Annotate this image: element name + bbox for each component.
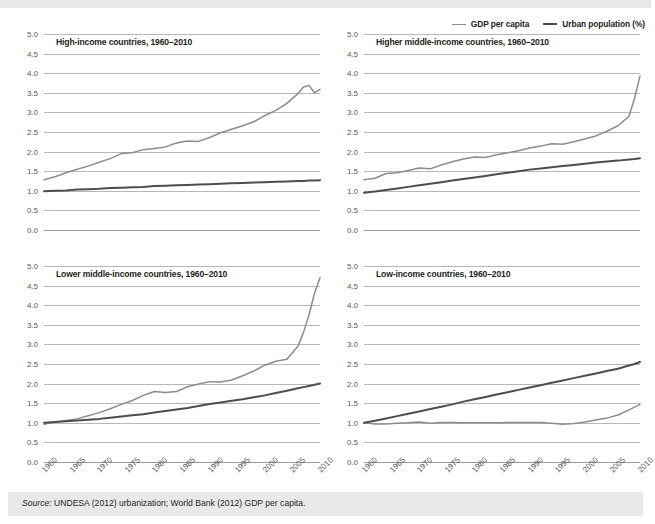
y-axis-tick-label: 4.5 [8,50,38,59]
y-axis-tick-label: 3.5 [328,321,358,330]
y-axis-tick-label: 5.0 [328,262,358,271]
y-axis-tick-label: 2.0 [328,380,358,389]
plot-area [44,266,320,462]
series-line-urban [44,180,320,191]
x-axis-tick-label: 1960 [360,455,379,474]
chart-panel-lower-middle-income: Lower middle-income countries, 1960–2010… [8,262,328,494]
y-axis-tick-label: 3.5 [328,89,358,98]
y-axis-tick-label: 1.0 [328,187,358,196]
y-axis-tick-label: 2.5 [8,360,38,369]
panel-title: High-income countries, 1960–2010 [56,37,192,47]
y-axis-tick-label: 2.0 [8,148,38,157]
legend-item-gdp: GDP per capita [452,19,530,29]
y-axis-tick-label: 0.5 [328,206,358,215]
plot-area [44,34,320,230]
y-axis-tick-label: 2.5 [328,360,358,369]
y-axis-tick-label: 4.0 [328,69,358,78]
series-canvas [44,34,320,230]
chart-panel-low-income: Low-income countries, 1960–2010 5.04.54.… [328,262,648,494]
y-axis-tick-label: 3.5 [8,89,38,98]
y-axis-tick-label: 1.0 [8,187,38,196]
y-axis-tick-label: 4.5 [328,50,358,59]
x-axis-tick-label: 1960 [40,455,59,474]
y-axis-tick-label: 3.0 [8,108,38,117]
figure-panel-grid: GDP per capita Urban population (%) High… [0,8,651,486]
plot-area [364,34,640,230]
series-canvas [364,34,640,230]
y-axis-tick-label: 1.0 [328,419,358,428]
series-line-gdp [44,85,320,179]
y-axis-tick-label: 3.0 [8,340,38,349]
legend-line-gdp-icon [452,24,466,25]
y-axis-tick-label: 5.0 [8,262,38,271]
y-axis-tick-label: 0.5 [328,438,358,447]
y-axis-tick-label: 0.0 [8,458,38,467]
y-axis-tick-label: 2.5 [328,128,358,137]
source-note: Source: UNDESA (2012) urbanization; Worl… [22,498,305,508]
series-line-gdp [44,278,320,425]
y-axis-tick-label: 0.0 [328,226,358,235]
panel-title: Low-income countries, 1960–2010 [376,269,510,279]
y-axis-tick-label: 5.0 [8,30,38,39]
y-axis-tick-label: 3.0 [328,340,358,349]
y-axis-tick-label: 0.5 [8,438,38,447]
gridline [44,230,320,231]
panel-title: Higher middle-income countries, 1960–201… [376,37,549,47]
y-axis-tick-label: 4.0 [8,301,38,310]
y-axis-tick-label: 3.5 [8,321,38,330]
y-axis-tick-label: 2.0 [328,148,358,157]
source-label: Source: [22,498,52,508]
y-axis-tick-label: 4.5 [8,282,38,291]
y-axis-tick-label: 3.0 [328,108,358,117]
chart-panel-higher-middle-income: Higher middle-income countries, 1960–201… [328,30,648,262]
y-axis-tick-label: 2.0 [8,380,38,389]
y-axis-tick-label: 1.5 [328,399,358,408]
panel-title: Lower middle-income countries, 1960–2010 [56,269,227,279]
series-canvas [364,266,640,462]
legend-item-urban: Urban population (%) [543,19,645,29]
y-axis-tick-label: 0.5 [8,206,38,215]
y-axis-tick-label: 1.5 [8,167,38,176]
series-line-urban [364,362,640,423]
series-line-urban [364,158,640,192]
y-axis-tick-label: 0.0 [328,458,358,467]
top-decorative-band [0,0,651,8]
legend-label-urban: Urban population (%) [562,19,645,29]
y-axis-tick-label: 5.0 [328,30,358,39]
series-line-gdp [364,76,640,180]
y-axis-tick-label: 1.5 [8,399,38,408]
y-axis-tick-label: 0.0 [8,226,38,235]
y-axis-tick-label: 4.5 [328,282,358,291]
legend-label-gdp: GDP per capita [471,19,530,29]
y-axis-tick-label: 2.5 [8,128,38,137]
y-axis-tick-label: 4.0 [328,301,358,310]
series-canvas [44,266,320,462]
plot-area [364,266,640,462]
legend-line-urban-icon [543,23,557,25]
chart-panel-high-income: High-income countries, 1960–2010 5.04.54… [8,30,328,262]
y-axis-tick-label: 4.0 [8,69,38,78]
source-body: UNDESA (2012) urbanization; World Bank (… [52,498,306,508]
gridline [364,230,640,231]
y-axis-tick-label: 1.5 [328,167,358,176]
y-axis-tick-label: 1.0 [8,419,38,428]
